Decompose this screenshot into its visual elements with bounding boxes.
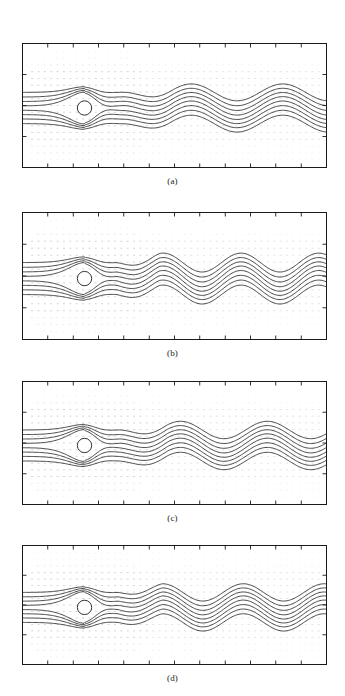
panel-a-caption: (a)	[0, 176, 345, 186]
panel-d-plot	[22, 545, 327, 665]
panel-b-plot	[22, 212, 327, 340]
velocity-vector-grid	[31, 553, 320, 657]
velocity-vector-grid	[31, 220, 320, 331]
panel-c-plot	[22, 381, 327, 505]
cylinder-obstacle	[77, 600, 91, 614]
streamline	[22, 275, 327, 296]
streamline-group	[22, 421, 327, 469]
figure-page: (a) (b) (c) (d)	[0, 0, 345, 696]
cylinder-obstacle	[77, 271, 91, 285]
flow-plot-svg	[22, 212, 327, 340]
panel-d-caption: (d)	[0, 673, 345, 683]
streamline	[22, 271, 327, 295]
flow-plot-svg	[22, 43, 327, 168]
streamline-group	[22, 253, 327, 304]
streamline	[22, 588, 327, 606]
panel-b-caption: (b)	[0, 348, 345, 358]
cylinder-obstacle	[77, 101, 91, 115]
streamline-group	[22, 584, 327, 631]
flow-plot-svg	[22, 545, 327, 665]
streamline	[22, 590, 327, 610]
panel-a-plot	[22, 43, 327, 168]
cylinder-obstacle	[77, 438, 91, 452]
flow-plot-svg	[22, 381, 327, 505]
streamline-group	[22, 84, 327, 132]
panel-c-caption: (c)	[0, 513, 345, 523]
